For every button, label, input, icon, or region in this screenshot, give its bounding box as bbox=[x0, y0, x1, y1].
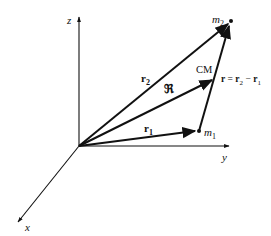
z-axis-label: z bbox=[66, 14, 72, 26]
label-m1: m1 bbox=[204, 126, 216, 141]
diagram-canvas: z y x r2 ℜ r1 r = r2 − r1 m2 m1 CM bbox=[0, 0, 271, 236]
x-axis-label: x bbox=[24, 221, 30, 233]
center-of-mass-diagram: z y x r2 ℜ r1 r = r2 − r1 m2 m1 CM bbox=[0, 0, 271, 236]
label-R: ℜ bbox=[164, 82, 174, 96]
vector-r1 bbox=[79, 131, 195, 146]
label-r1: r1 bbox=[144, 122, 153, 137]
vector-R bbox=[79, 80, 212, 146]
mass-point-m1 bbox=[197, 129, 201, 133]
label-cm: CM bbox=[196, 64, 213, 75]
x-axis bbox=[18, 146, 79, 222]
label-r2: r2 bbox=[141, 72, 150, 87]
label-r-relative: r = r2 − r1 bbox=[221, 74, 261, 87]
label-m2: m2 bbox=[212, 13, 224, 28]
mass-point-m2 bbox=[229, 19, 233, 23]
y-axis-label: y bbox=[221, 151, 227, 163]
